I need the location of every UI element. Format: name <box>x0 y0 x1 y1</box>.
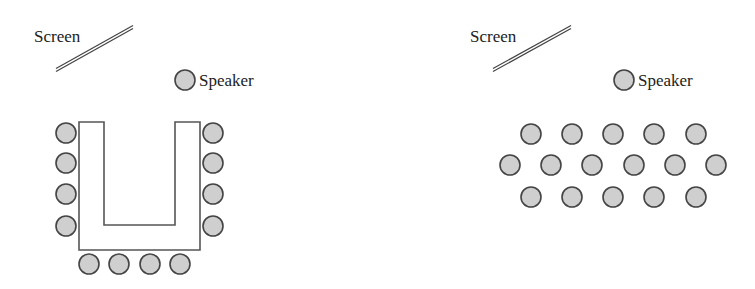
seat-icon <box>56 153 76 173</box>
speaker-label: Speaker <box>199 71 254 90</box>
speaker-icon <box>614 70 634 90</box>
u-table <box>79 122 200 250</box>
seat-icon <box>521 124 541 144</box>
seat-icon <box>603 124 623 144</box>
seat-icon <box>686 124 706 144</box>
seat-icon <box>500 155 520 175</box>
seat-icon <box>203 184 223 204</box>
seat-icon <box>541 155 561 175</box>
seat-icon <box>644 124 664 144</box>
u-shape-layout: ScreenSpeaker <box>34 26 254 275</box>
seat-icon <box>644 187 664 207</box>
seat-icon <box>706 155 726 175</box>
seat-icon <box>562 124 582 144</box>
seat-icon <box>56 123 76 143</box>
seat-icon <box>203 216 223 236</box>
speaker-icon <box>175 70 195 90</box>
seat-icon <box>582 155 602 175</box>
seat-icon <box>603 187 623 207</box>
seat-icon <box>562 187 582 207</box>
seat-icon <box>665 155 685 175</box>
seat-icon <box>686 187 706 207</box>
classroom-layout: ScreenSpeaker <box>470 26 726 208</box>
seat-icon <box>203 123 223 143</box>
speaker-label: Speaker <box>638 71 693 90</box>
seat-icon <box>140 254 160 274</box>
seat-icon <box>624 155 644 175</box>
seating-diagrams: ScreenSpeakerScreenSpeaker <box>0 0 755 289</box>
seat-icon <box>170 254 190 274</box>
seat-icon <box>203 153 223 173</box>
seat-icon <box>56 216 76 236</box>
seat-icon <box>521 187 541 207</box>
screen-label: Screen <box>34 27 81 46</box>
seat-icon <box>56 184 76 204</box>
seat-icon <box>79 254 99 274</box>
seat-icon <box>109 254 129 274</box>
screen-label: Screen <box>470 27 517 46</box>
